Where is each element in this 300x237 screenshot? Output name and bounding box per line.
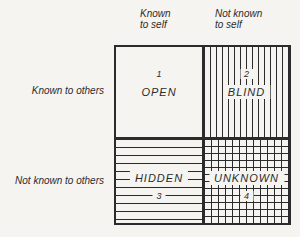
quadrant-unknown-label: UNKNOWN <box>209 171 284 185</box>
quadrant-hidden: HIDDEN 3 <box>116 139 204 223</box>
quadrant-hidden-number: 3 <box>152 191 165 201</box>
window-grid: 1 OPEN 2 BLIND HIDDEN 3 UNKNOWN 4 <box>114 45 291 225</box>
quadrant-hidden-label: HIDDEN <box>130 171 188 185</box>
column-header-not-known-to-self: Not known to self <box>215 8 262 30</box>
quadrant-unknown-number: 4 <box>240 191 253 201</box>
johari-window-diagram: Known to self Not known to self Known to… <box>0 0 300 237</box>
quadrant-open: 1 OPEN <box>116 47 204 139</box>
column-header-known-to-self: Known to self <box>140 8 171 30</box>
quadrant-open-label: OPEN <box>136 85 181 99</box>
quadrant-blind-label: BLIND <box>223 85 270 99</box>
quadrant-open-number: 1 <box>152 69 165 79</box>
row-header-known-to-others: Known to others <box>0 85 104 96</box>
row-header-not-known-to-others: Not known to others <box>0 175 104 186</box>
quadrant-unknown: UNKNOWN 4 <box>204 139 289 223</box>
quadrant-blind: 2 BLIND <box>204 47 289 139</box>
quadrant-blind-number: 2 <box>240 69 253 79</box>
